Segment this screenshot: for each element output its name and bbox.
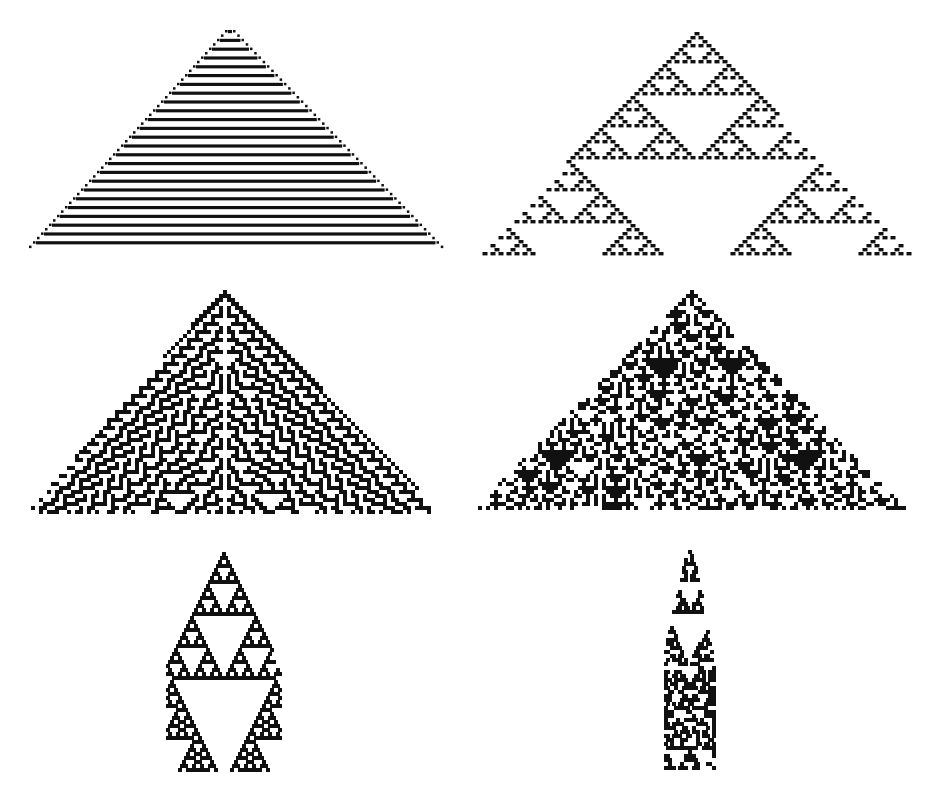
panel-complex-triangle (471, 286, 931, 520)
ca-pattern-chaotic (24, 286, 466, 522)
ca-pattern-narrow-nested (109, 548, 351, 782)
ca-pattern-narrow-irregular (641, 546, 756, 780)
ca-pattern-complex (471, 286, 931, 520)
panel-chaotic-triangle (24, 286, 466, 522)
panel-narrow-nested-triangle (109, 548, 351, 782)
ca-pattern-rule-18 (476, 28, 936, 265)
ca-pattern-rule-50 (26, 26, 468, 262)
panel-striped-triangle (26, 26, 468, 262)
panel-sierpinski-triangle (476, 28, 936, 265)
panel-narrow-irregular-cone (641, 546, 756, 780)
